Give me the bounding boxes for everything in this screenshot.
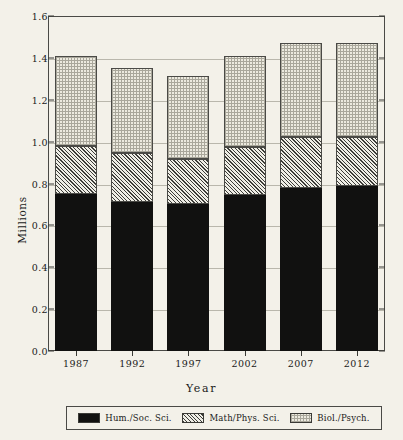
x-tick-label: 2012: [327, 358, 387, 369]
x-tick-mark: [188, 351, 189, 356]
bar-2012: [336, 16, 378, 351]
bar-segment: [224, 195, 266, 351]
x-tick-label: 1987: [46, 358, 106, 369]
y-tick-label: 0.4: [14, 262, 48, 273]
legend-item: Biol./Psych.: [290, 413, 369, 423]
y-tick-label: 0.6: [14, 220, 48, 231]
bar-segment: [336, 186, 378, 351]
y-tick-label: 0.8: [14, 178, 48, 189]
bar-segment: [280, 43, 322, 137]
x-axis-title: Year: [0, 382, 403, 395]
bar-segment: [167, 159, 209, 204]
legend-label: Biol./Psych.: [317, 413, 369, 423]
y-tick-label: 0.2: [14, 304, 48, 315]
bar-segment: [336, 43, 378, 137]
y-tick-label: 0.0: [14, 346, 48, 357]
bar-segment: [55, 146, 97, 194]
bars-layer: [48, 16, 385, 351]
bar-segment: [111, 68, 153, 153]
legend-item: Math/Phys. Sci.: [182, 413, 279, 423]
bar-segment: [167, 76, 209, 160]
bar-2002: [224, 16, 266, 351]
y-tick-label: 1.0: [14, 136, 48, 147]
bar-segment: [224, 56, 266, 147]
legend-label: Hum./Soc. Sci.: [105, 413, 171, 423]
y-tick-label: 1.2: [14, 94, 48, 105]
x-tick-mark: [132, 351, 133, 356]
stacked-bar-chart: Millions 0.00.20.40.60.81.01.21.41.6 198…: [0, 0, 403, 440]
legend-swatch: [290, 413, 312, 423]
bar-segment: [111, 153, 153, 202]
x-tick-label: 2007: [271, 358, 331, 369]
legend-item: Hum./Soc. Sci.: [78, 413, 171, 423]
bar-1997: [167, 16, 209, 351]
x-tick-mark: [301, 351, 302, 356]
bar-segment: [55, 194, 97, 351]
x-tick-mark: [245, 351, 246, 356]
x-tick-label: 1997: [158, 358, 218, 369]
bar-1992: [111, 16, 153, 351]
x-tick-mark: [76, 351, 77, 356]
legend-swatch: [182, 413, 204, 423]
bar-segment: [55, 56, 97, 146]
x-tick-mark: [357, 351, 358, 356]
bar-segment: [224, 147, 266, 195]
chart-legend: Hum./Soc. Sci.Math/Phys. Sci.Biol./Psych…: [66, 406, 382, 430]
x-tick-label: 1992: [102, 358, 162, 369]
y-tick-label: 1.4: [14, 52, 48, 63]
bar-segment: [280, 137, 322, 187]
bar-segment: [167, 204, 209, 351]
bar-segment: [336, 137, 378, 185]
bar-1987: [55, 16, 97, 351]
bar-segment: [111, 202, 153, 351]
bar-2007: [280, 16, 322, 351]
bar-segment: [280, 188, 322, 351]
legend-label: Math/Phys. Sci.: [209, 413, 279, 423]
y-tick-label: 1.6: [14, 11, 48, 22]
x-tick-label: 2002: [215, 358, 275, 369]
legend-swatch: [78, 413, 100, 423]
